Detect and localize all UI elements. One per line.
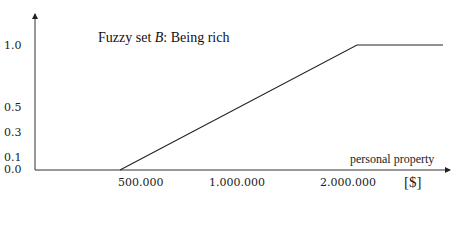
x-tick-2000000: 2.000.000 — [320, 176, 376, 189]
y-tick-0.5: 0.5 — [4, 101, 28, 114]
y-tick-1.0: 1.0 — [4, 39, 28, 52]
x-axis-unit: [$] — [404, 174, 422, 191]
title-prefix: Fuzzy set — [98, 30, 155, 45]
title-suffix: : Being rich — [163, 30, 229, 45]
chart-title: Fuzzy set B: Being rich — [98, 30, 229, 46]
x-tick-500000: 500.000 — [118, 176, 164, 189]
x-axis-label: personal property — [350, 152, 434, 167]
x-tick-1000000: 1.000.000 — [209, 176, 265, 189]
y-tick-0.0: 0.0 — [4, 163, 28, 176]
y-tick-0.3: 0.3 — [4, 126, 28, 139]
